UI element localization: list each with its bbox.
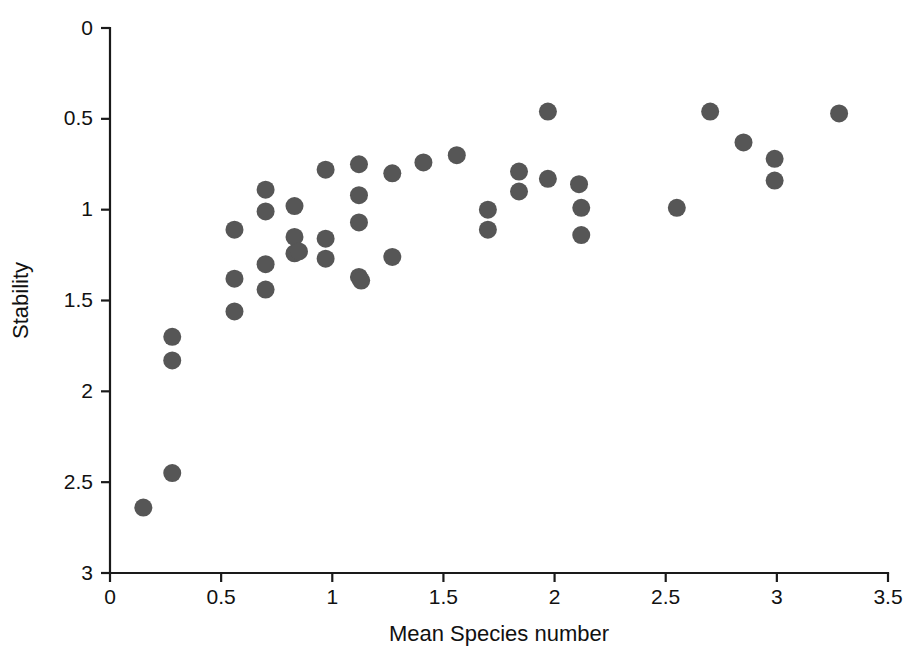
data-points-group	[134, 103, 848, 517]
y-tick-label: 2.5	[64, 470, 93, 493]
plot-canvas: 00.511.522.5300.511.522.533.5 Mean Speci…	[0, 0, 907, 665]
data-point	[572, 199, 590, 217]
data-point	[163, 464, 181, 482]
data-point	[352, 272, 370, 290]
data-point	[479, 201, 497, 219]
data-point	[479, 221, 497, 239]
data-point	[290, 242, 308, 260]
data-point	[539, 103, 557, 121]
data-point	[510, 163, 528, 181]
data-point	[350, 186, 368, 204]
data-point	[163, 351, 181, 369]
x-tick-label: 1	[326, 585, 338, 608]
y-tick-label: 3	[81, 561, 93, 584]
data-point	[383, 164, 401, 182]
data-point	[735, 133, 753, 151]
data-point	[766, 150, 784, 168]
data-point	[257, 255, 275, 273]
y-tick-label: 0.5	[64, 106, 93, 129]
x-axis-title: Mean Species number	[389, 621, 609, 646]
data-point	[286, 197, 304, 215]
data-point	[163, 328, 181, 346]
data-point	[539, 170, 557, 188]
data-point	[134, 499, 152, 517]
data-point	[701, 103, 719, 121]
data-point	[448, 146, 466, 164]
axes-group	[110, 28, 888, 573]
data-point	[414, 153, 432, 171]
x-tick-label: 2	[549, 585, 561, 608]
x-tick-label: 0.5	[207, 585, 236, 608]
x-tick-label: 1.5	[429, 585, 458, 608]
data-point	[225, 302, 243, 320]
data-point	[766, 172, 784, 190]
y-tick-label: 1	[81, 197, 93, 220]
data-point	[383, 248, 401, 266]
x-tick-label: 3.5	[873, 585, 902, 608]
data-point	[350, 213, 368, 231]
data-point	[257, 281, 275, 299]
data-point	[570, 175, 588, 193]
x-tick-label: 2.5	[651, 585, 680, 608]
y-tick-label: 1.5	[64, 288, 93, 311]
data-point	[510, 183, 528, 201]
x-tick-label: 0	[104, 585, 116, 608]
data-point	[257, 202, 275, 220]
data-point	[830, 104, 848, 122]
scatter-chart-figure: 00.511.522.5300.511.522.533.5 Mean Speci…	[0, 0, 907, 665]
ticks-group: 00.511.522.5300.511.522.533.5	[64, 16, 903, 609]
data-point	[668, 199, 686, 217]
data-point	[317, 230, 335, 248]
data-point	[225, 270, 243, 288]
data-point	[257, 181, 275, 199]
data-point	[225, 221, 243, 239]
x-tick-label: 3	[771, 585, 783, 608]
data-point	[317, 161, 335, 179]
y-axis-title: Stability	[8, 262, 33, 339]
data-point	[572, 226, 590, 244]
data-point	[350, 155, 368, 173]
axis-labels-group: Mean Species numberStability	[8, 262, 609, 646]
y-tick-label: 2	[81, 379, 93, 402]
y-tick-label: 0	[81, 16, 93, 39]
data-point	[317, 250, 335, 268]
